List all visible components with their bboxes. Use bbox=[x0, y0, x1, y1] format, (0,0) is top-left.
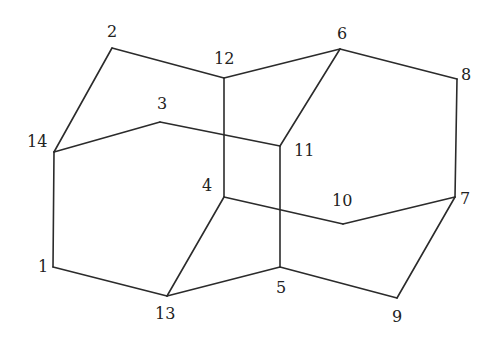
edge-1-13 bbox=[53, 267, 167, 296]
vertex-label-7: 7 bbox=[460, 189, 470, 208]
edge-4-10 bbox=[224, 197, 343, 224]
edge-layer bbox=[53, 48, 457, 298]
edge-7-9 bbox=[397, 197, 455, 298]
edge-13-4 bbox=[167, 197, 224, 296]
vertex-label-5: 5 bbox=[276, 278, 286, 297]
vertex-label-11: 11 bbox=[294, 141, 314, 160]
vertex-label-9: 9 bbox=[392, 307, 402, 326]
edge-2-12 bbox=[112, 48, 224, 78]
edge-2-14 bbox=[54, 48, 112, 152]
vertex-label-layer: 1234567891011121314 bbox=[27, 22, 471, 326]
vertex-label-8: 8 bbox=[461, 65, 471, 84]
edge-6-11 bbox=[280, 49, 340, 146]
graph-diagram: 1234567891011121314 bbox=[0, 0, 494, 343]
vertex-label-12: 12 bbox=[214, 49, 234, 68]
vertex-label-2: 2 bbox=[107, 22, 117, 41]
edge-6-8 bbox=[340, 49, 457, 79]
vertex-label-4: 4 bbox=[202, 176, 212, 195]
vertex-label-3: 3 bbox=[157, 94, 167, 113]
edge-13-5 bbox=[167, 267, 280, 296]
edge-12-6 bbox=[224, 49, 340, 78]
vertex-label-1: 1 bbox=[38, 257, 48, 276]
edge-3-11 bbox=[160, 122, 280, 146]
edge-14-3 bbox=[54, 122, 160, 152]
vertex-label-13: 13 bbox=[155, 304, 175, 323]
edge-9-5 bbox=[280, 267, 397, 298]
edge-10-7 bbox=[343, 197, 455, 224]
vertex-label-6: 6 bbox=[337, 24, 347, 43]
edge-14-1 bbox=[53, 152, 54, 267]
edge-8-7 bbox=[455, 79, 457, 197]
vertex-label-14: 14 bbox=[27, 132, 47, 151]
vertex-label-10: 10 bbox=[332, 191, 352, 210]
